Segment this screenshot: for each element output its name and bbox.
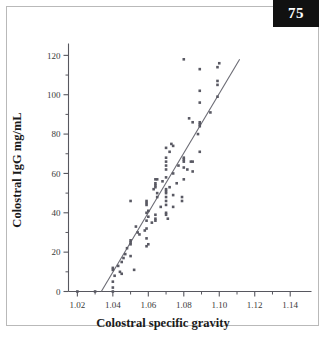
y-axis-tick-label: 20 (52, 247, 62, 257)
data-point (168, 186, 171, 189)
data-point (133, 269, 136, 272)
data-point (129, 239, 132, 242)
data-point (188, 117, 191, 120)
data-point (161, 180, 164, 183)
data-point (172, 145, 175, 148)
y-axis-tick-label: 0 (56, 287, 61, 297)
data-point (165, 196, 168, 199)
data-point (182, 58, 185, 61)
x-axis-tick-label: 1.02 (69, 300, 85, 310)
data-point (165, 168, 168, 171)
data-point (182, 156, 185, 159)
data-point (172, 194, 175, 197)
x-axis-tick-label: 1.14 (282, 300, 298, 310)
data-point (159, 206, 162, 209)
data-point (138, 233, 141, 236)
y-axis-tick-label: 60 (52, 169, 62, 179)
data-point (112, 286, 115, 289)
data-point (165, 164, 168, 167)
data-point (112, 267, 115, 270)
data-point (129, 255, 132, 258)
data-point (198, 101, 201, 104)
data-point (165, 204, 168, 207)
data-point (198, 89, 201, 92)
scatter-chart: 0204060801001201.021.041.061.081.101.121… (0, 0, 325, 339)
data-point (216, 80, 219, 83)
data-point (198, 121, 201, 124)
data-point (197, 133, 200, 136)
data-point (145, 219, 148, 222)
data-point (181, 196, 184, 199)
data-point (145, 237, 148, 240)
plot-svg: 0204060801001201.021.041.061.081.101.121… (0, 0, 325, 339)
data-point (198, 68, 201, 71)
data-point (165, 200, 168, 203)
y-axis-tick-label: 120 (47, 51, 61, 61)
data-point (165, 211, 168, 214)
data-point (172, 206, 175, 209)
data-point (218, 62, 221, 65)
data-point (216, 95, 219, 98)
data-point (124, 253, 127, 256)
data-point (117, 265, 120, 268)
data-point (181, 200, 184, 203)
data-point (156, 192, 159, 195)
data-point (145, 200, 148, 203)
y-axis-tick-label: 40 (52, 208, 62, 218)
data-point (156, 178, 159, 181)
data-point (135, 225, 138, 228)
data-point (147, 210, 150, 213)
y-axis-tick-label: 80 (52, 129, 62, 139)
data-point (156, 196, 159, 199)
figure-page: 75 0204060801001201.021.041.061.081.101.… (0, 0, 325, 339)
data-point (154, 182, 157, 185)
data-point (122, 257, 125, 260)
data-point (167, 217, 170, 220)
y-axis-tick-label: 100 (47, 90, 61, 100)
data-point (198, 150, 201, 153)
data-point (147, 215, 150, 218)
data-point (147, 243, 150, 246)
data-point (191, 121, 194, 124)
data-point (216, 84, 219, 87)
data-point (165, 156, 168, 159)
data-point (145, 227, 148, 230)
x-axis-tick-label: 1.08 (176, 300, 192, 310)
data-point (175, 182, 178, 185)
x-axis-tick-label: 1.06 (140, 300, 156, 310)
data-point (172, 172, 175, 175)
data-point (186, 168, 189, 171)
data-point (120, 261, 123, 264)
data-point (165, 147, 168, 150)
x-axis-title: Colostral specific gravity (96, 316, 230, 330)
x-axis-tick-label: 1.12 (247, 300, 263, 310)
data-point (120, 272, 123, 275)
y-axis-title: Colostral IgG mg/mL (10, 112, 24, 227)
data-point (182, 166, 185, 169)
data-point (191, 160, 194, 163)
data-point (112, 280, 115, 283)
data-point (154, 217, 157, 220)
data-point (76, 290, 79, 293)
data-point (154, 213, 157, 216)
data-point (165, 188, 168, 191)
data-point (151, 221, 154, 224)
data-point (177, 164, 180, 167)
data-point (113, 274, 116, 277)
data-point (209, 111, 212, 114)
data-point (216, 66, 219, 69)
data-point (168, 150, 171, 153)
data-point (182, 178, 185, 181)
x-axis-tick-label: 1.04 (105, 300, 121, 310)
regression-line (101, 59, 239, 291)
data-point (165, 176, 168, 179)
data-point (165, 160, 168, 163)
data-point (94, 290, 97, 293)
data-point (112, 290, 115, 293)
data-point (126, 247, 129, 250)
x-axis-tick-label: 1.10 (211, 300, 227, 310)
data-point (191, 170, 194, 173)
data-point (129, 200, 132, 203)
